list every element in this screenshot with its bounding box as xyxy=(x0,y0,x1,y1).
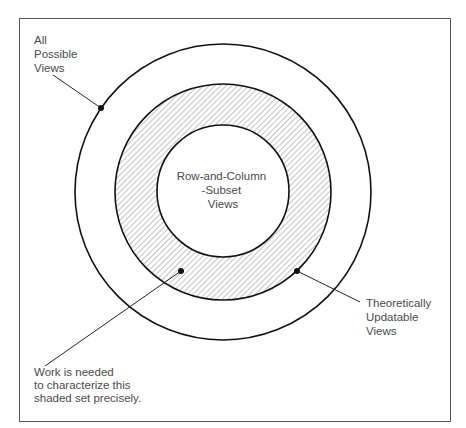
all-possible-dot xyxy=(98,105,104,111)
work-needed-label: Work is needed to characterize this shad… xyxy=(34,366,141,404)
all-possible-leader-line xyxy=(53,75,101,108)
theoretically-updatable-views-label: Theoretically Updatable Views xyxy=(366,297,434,337)
theoretically-updatable-dot xyxy=(294,268,300,274)
work-needed-dot xyxy=(178,268,184,274)
nested-views-diagram: All Possible Views Row-and-Column -Subse… xyxy=(0,0,466,428)
all-possible-views-label: All Possible Views xyxy=(34,34,81,74)
